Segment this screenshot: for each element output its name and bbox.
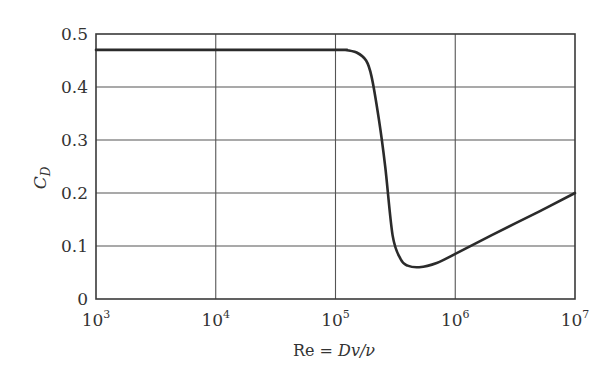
y-axis-label: CD [30, 166, 53, 189]
x-axis-label: Re = Dv/ν [293, 341, 375, 360]
y-tick-label: 0 [77, 289, 88, 309]
x-tick-label: 107 [561, 308, 590, 330]
y-tick-labels: 00.10.20.30.40.5 [61, 24, 88, 309]
y-axis-label-subscript: D [39, 166, 53, 177]
y-tick-label: 0.4 [61, 77, 88, 97]
grid-lines [96, 34, 575, 299]
y-tick-label: 0.2 [61, 183, 88, 203]
y-tick-label: 0.1 [61, 236, 88, 256]
y-tick-label: 0.3 [61, 130, 88, 150]
x-tick-label: 104 [201, 308, 230, 330]
x-tick-label: 106 [441, 308, 470, 330]
drag-coefficient-chart: 00.10.20.30.40.5 103104105106107 CD Re =… [0, 0, 611, 384]
x-tick-labels: 103104105106107 [82, 308, 590, 330]
y-tick-label: 0.5 [61, 24, 88, 44]
x-tick-label: 103 [82, 308, 111, 330]
x-tick-label: 105 [321, 308, 350, 330]
